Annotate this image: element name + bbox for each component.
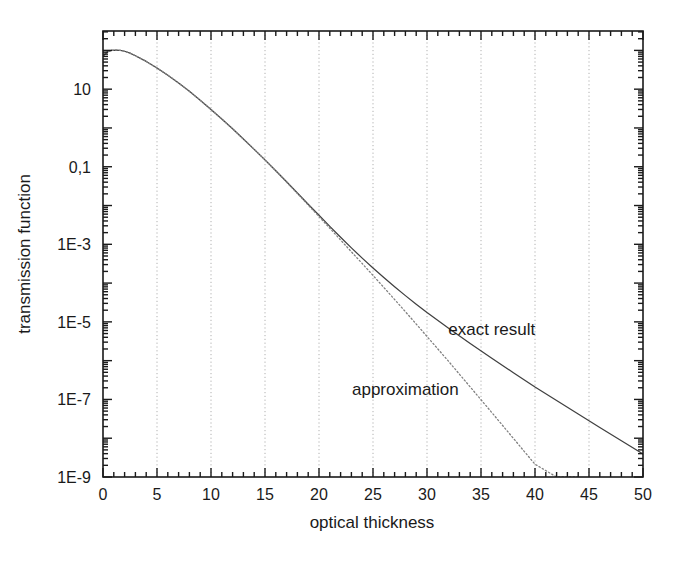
x-tick-label-15: 15 — [256, 486, 274, 503]
transmission-function-plot: 05101520253035404550 100,11E-31E-51E-71E… — [0, 0, 681, 566]
x-tick-label-45: 45 — [580, 486, 598, 503]
y-axis-title: transmission function — [15, 174, 34, 334]
plot-background — [0, 0, 681, 566]
x-tick-label-10: 10 — [202, 486, 220, 503]
y-tick-label-1E-9: 1E-9 — [57, 469, 91, 486]
y-tick-label-1E-3: 1E-3 — [57, 236, 91, 253]
y-tick-label-10: 10 — [73, 81, 91, 98]
y-tick-label-1E-5: 1E-5 — [57, 314, 91, 331]
x-tick-label-50: 50 — [634, 486, 652, 503]
x-tick-label-35: 35 — [472, 486, 490, 503]
x-tick-label-40: 40 — [526, 486, 544, 503]
x-axis-title: optical thickness — [310, 513, 435, 532]
x-tick-label-25: 25 — [364, 486, 382, 503]
x-tick-label-5: 5 — [153, 486, 162, 503]
annotation-exact-result: exact result — [448, 320, 535, 339]
y-tick-label-01: 0,1 — [69, 159, 91, 176]
chart-figure: 05101520253035404550 100,11E-31E-51E-71E… — [0, 0, 681, 566]
x-tick-label-30: 30 — [418, 486, 436, 503]
annotation-approximation: approximation — [352, 380, 459, 399]
x-tick-label-0: 0 — [99, 486, 108, 503]
y-tick-label-1E-7: 1E-7 — [57, 391, 91, 408]
x-tick-label-20: 20 — [310, 486, 328, 503]
